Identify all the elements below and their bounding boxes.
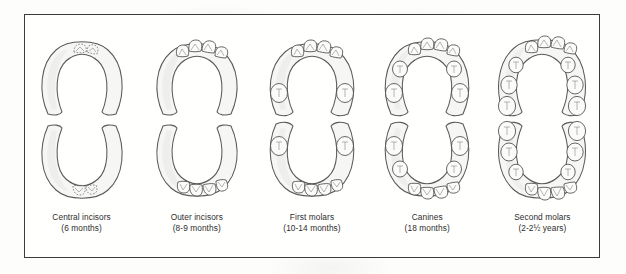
upper-arch-canines — [375, 30, 479, 118]
caption-line1: First molars — [290, 212, 334, 222]
caption-line1: Canines — [412, 212, 443, 222]
caption-canines: Canines (18 months) — [405, 212, 450, 235]
caption-line2: (8-9 months) — [171, 223, 223, 234]
lower-arch-second-molars — [490, 120, 594, 208]
lower-arch-outer-incisors — [145, 120, 249, 208]
caption-line2: (2-2½ years) — [514, 223, 570, 234]
upper-arch-central-incisors — [30, 30, 134, 118]
stage-column-outer-incisors: Outer incisors (8-9 months) — [139, 14, 254, 258]
upper-arch-outer-incisors — [145, 30, 249, 118]
caption-outer-incisors: Outer incisors (8-9 months) — [171, 212, 223, 235]
eruption-sequence-grid: Central incisors (6 months) — [24, 14, 600, 258]
caption-line2: (10-14 months) — [283, 223, 340, 234]
stage-column-canines: Canines (18 months) — [370, 14, 485, 258]
stage-column-first-molars: First molars (10-14 months) — [254, 14, 369, 258]
caption-line2: (18 months) — [405, 223, 450, 234]
lower-arch-central-incisors — [30, 120, 134, 208]
caption-line1: Outer incisors — [171, 212, 223, 222]
upper-arch-second-molars — [490, 30, 594, 118]
caption-line1: Second molars — [514, 212, 570, 222]
caption-first-molars: First molars (10-14 months) — [283, 212, 340, 235]
stage-column-central-incisors: Central incisors (6 months) — [24, 14, 139, 258]
caption-second-molars: Second molars (2-2½ years) — [514, 212, 570, 235]
upper-arch-first-molars — [260, 30, 364, 118]
caption-line2: (6 months) — [52, 223, 110, 234]
stage-column-second-molars: Second molars (2-2½ years) — [485, 14, 600, 258]
lower-arch-first-molars — [260, 120, 364, 208]
lower-arch-canines — [375, 120, 479, 208]
caption-central-incisors: Central incisors (6 months) — [52, 212, 110, 235]
caption-line1: Central incisors — [52, 212, 110, 222]
